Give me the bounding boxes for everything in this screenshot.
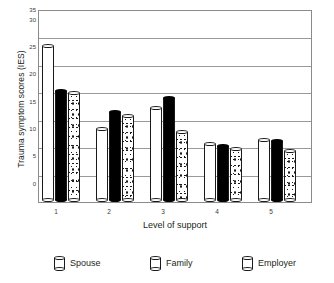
gridline-25 — [39, 66, 311, 67]
bar-body — [176, 132, 188, 200]
y-tick-label-10: 10 — [20, 126, 36, 132]
bar-chart-figure: Trauma symptom scores (IES) 0 5 10 15 20… — [0, 0, 334, 283]
bar-body — [258, 140, 270, 200]
x-tick-label-1: 1 — [41, 208, 71, 215]
bar-base-ellipse — [122, 198, 134, 202]
bar-top-ellipse — [258, 138, 270, 142]
bar-body — [109, 112, 121, 200]
bar-base-ellipse — [42, 198, 54, 202]
x-tick-label-5: 5 — [256, 208, 286, 215]
bar-spouse-level-1 — [42, 44, 54, 202]
bar-spouse-level-4 — [204, 142, 216, 202]
y-tick-label-25: 25 — [20, 44, 36, 50]
bar-family-level-3 — [163, 96, 175, 202]
bar-base-ellipse — [230, 198, 242, 202]
y-axis-label: Trauma symptom scores (IES) — [16, 14, 26, 204]
bar-base-ellipse — [271, 198, 283, 202]
x-axis-label: Level of support — [38, 220, 312, 230]
bar-top-ellipse — [176, 130, 188, 134]
legend-label-family: Family — [166, 258, 193, 268]
legend-item-employer: Employer — [242, 256, 296, 271]
bar-family-level-4 — [217, 144, 229, 202]
plot-area — [38, 10, 312, 203]
cylinder-white-icon — [54, 256, 65, 271]
cylinder-black-icon — [150, 256, 161, 271]
bar-employer-level-3 — [176, 130, 188, 202]
bar-body — [55, 91, 67, 200]
bar-base-ellipse — [55, 198, 67, 202]
bar-base-ellipse — [217, 198, 229, 202]
legend-item-spouse: Spouse — [54, 256, 101, 271]
bar-body — [68, 93, 80, 200]
bar-family-level-2 — [109, 110, 121, 202]
gridline-30 — [39, 38, 311, 39]
legend-item-family: Family — [150, 256, 193, 271]
y-tick-label-5: 5 — [20, 153, 36, 159]
bar-base-ellipse — [284, 198, 296, 202]
bar-base-ellipse — [150, 198, 162, 202]
bar-body — [163, 98, 175, 200]
bar-body — [284, 151, 296, 200]
bar-base-ellipse — [96, 198, 108, 202]
bar-body — [271, 141, 283, 200]
y-tick-label-30: 30 — [20, 17, 36, 23]
y-tick-label-15: 15 — [20, 99, 36, 105]
y-tick-label-35: 35 — [20, 7, 36, 13]
bar-top-ellipse — [42, 44, 54, 48]
x-tick-label-2: 2 — [94, 208, 124, 215]
bar-base-ellipse — [163, 198, 175, 202]
bar-base-ellipse — [176, 198, 188, 202]
bar-employer-level-4 — [230, 147, 242, 202]
bar-base-ellipse — [68, 198, 80, 202]
bar-spouse-level-5 — [258, 138, 270, 202]
bar-body — [42, 46, 54, 200]
chart-legend: Spouse Family Employer — [38, 250, 312, 276]
bar-base-ellipse — [204, 198, 216, 202]
bar-base-ellipse — [109, 198, 121, 202]
x-tick-label-4: 4 — [202, 208, 232, 215]
legend-label-spouse: Spouse — [70, 258, 101, 268]
cylinder-dotted-icon — [242, 256, 253, 271]
bar-employer-level-5 — [284, 149, 296, 202]
bar-employer-level-2 — [122, 114, 134, 202]
y-tick-label-20: 20 — [20, 71, 36, 77]
bar-top-ellipse — [150, 106, 162, 110]
x-tick-label-3: 3 — [148, 208, 178, 215]
bar-body — [150, 108, 162, 200]
bar-spouse-level-3 — [150, 106, 162, 202]
bar-top-ellipse — [204, 142, 216, 146]
bar-family-level-5 — [271, 139, 283, 202]
bar-family-level-1 — [55, 89, 67, 202]
bar-spouse-level-2 — [96, 127, 108, 202]
y-tick-label-0: 0 — [20, 181, 36, 187]
bar-body — [217, 146, 229, 200]
bar-employer-level-1 — [68, 91, 80, 202]
bar-body — [122, 116, 134, 200]
legend-label-employer: Employer — [258, 258, 296, 268]
bar-body — [230, 149, 242, 200]
bar-base-ellipse — [258, 198, 270, 202]
bar-top-ellipse — [109, 110, 121, 114]
bar-body — [204, 144, 216, 200]
bar-body — [96, 129, 108, 200]
